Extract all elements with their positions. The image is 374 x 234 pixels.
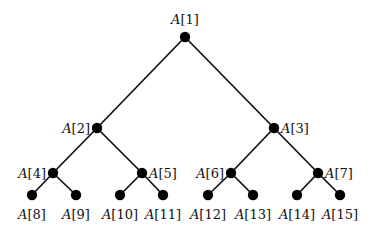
tree-edge bbox=[97, 128, 142, 173]
node-label: A[12] bbox=[189, 207, 226, 222]
tree-node bbox=[203, 190, 213, 200]
tree-edge bbox=[97, 37, 185, 128]
tree-node bbox=[27, 190, 37, 200]
node-label: A[15] bbox=[321, 207, 358, 222]
tree-node bbox=[137, 168, 147, 178]
tree-node bbox=[248, 190, 258, 200]
node-label: A[11] bbox=[144, 207, 181, 222]
node-label: A[6] bbox=[195, 166, 224, 181]
tree-node bbox=[180, 32, 190, 42]
tree-node bbox=[335, 190, 345, 200]
tree-node bbox=[48, 168, 58, 178]
binary-tree-diagram: A[1]A[2]A[3]A[4]A[5]A[6]A[7]A[8]A[9]A[10… bbox=[0, 0, 374, 234]
tree-nodes bbox=[27, 32, 345, 200]
node-label: A[9] bbox=[61, 207, 90, 222]
tree-canvas: A[1]A[2]A[3]A[4]A[5]A[6]A[7]A[8]A[9]A[10… bbox=[0, 0, 374, 234]
tree-node bbox=[158, 190, 168, 200]
tree-labels: A[1]A[2]A[3]A[4]A[5]A[6]A[7]A[8]A[9]A[10… bbox=[17, 12, 358, 222]
tree-node bbox=[292, 190, 302, 200]
node-label: A[8] bbox=[17, 207, 46, 222]
tree-edge bbox=[185, 37, 274, 128]
node-label: A[7] bbox=[324, 166, 353, 181]
tree-edges bbox=[32, 37, 340, 195]
tree-node bbox=[226, 168, 236, 178]
node-label: A[13] bbox=[234, 207, 271, 222]
node-label: A[14] bbox=[278, 207, 315, 222]
node-label: A[3] bbox=[280, 121, 309, 136]
tree-node bbox=[313, 168, 323, 178]
tree-node bbox=[269, 123, 279, 133]
tree-node bbox=[92, 123, 102, 133]
node-label: A[4] bbox=[17, 166, 46, 181]
node-label: A[1] bbox=[170, 12, 199, 27]
node-label: A[2] bbox=[61, 121, 90, 136]
node-label: A[5] bbox=[148, 166, 177, 181]
tree-node bbox=[71, 190, 81, 200]
tree-edge bbox=[231, 128, 274, 173]
node-label: A[10] bbox=[101, 207, 138, 222]
tree-node bbox=[115, 190, 125, 200]
